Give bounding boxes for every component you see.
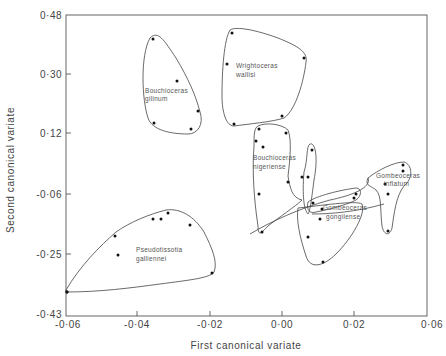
hull-bouchioceras-nigeriense (253, 124, 302, 233)
hull-bouchioceras-gilinum (143, 35, 201, 134)
label-bouchioceras-gilinum-1: Bouchioceras (145, 87, 188, 94)
label-wrightoceras-wallisi-2: wallisi (235, 71, 255, 78)
y-tick-label: -0·25 (36, 249, 62, 260)
x-tick-label: 0·02 (343, 319, 365, 330)
x-tick-label: -0·06 (55, 319, 81, 330)
label-wrightoceras-wallisi-1: Wrightoceras (236, 62, 278, 70)
points-bouchioceras-nigeriense (255, 128, 314, 239)
label-gombeoceras-gongilense-2: gongilense (326, 213, 361, 221)
points-wrightoceras-wallisi (226, 32, 306, 126)
label-pseudotissotia-galliennei-1: Pseudotissotia (136, 246, 183, 253)
label-bouchioceras-nigeriense-2: nigeriense (253, 163, 286, 171)
x-tick-label: 0·06 (421, 319, 443, 330)
y-axis-title: Second canonical variate (5, 107, 16, 233)
hull-wrightoceras-wallisi (222, 28, 306, 126)
hull-gombeoceras-gongilense-outer (297, 203, 362, 265)
scatter-chart: 0·48 0·30 0·12 -0·06 -0·25 -0·43 -0·06 -… (0, 0, 446, 356)
label-gombeoceras-inflatum-1: Gombeoceras (376, 172, 421, 179)
label-gombeoceras-inflatum-2: inflatum (384, 180, 409, 187)
y-tick-label: 0·12 (40, 128, 62, 139)
y-tick-label: -0·06 (36, 189, 62, 200)
label-bouchioceras-gilinum-2: gilinum (145, 95, 168, 103)
points-bouchioceras-gilinum (152, 38, 200, 131)
label-bouchioceras-nigeriense-1: Bouchioceras (253, 154, 296, 161)
label-gombeoceras-gongilense-1: Gombeoceras (323, 204, 368, 211)
data-points (65, 32, 404, 294)
x-axis-title: First canonical variate (190, 340, 301, 351)
x-axis: -0·06 -0·04 -0·02 0·00 0·02 0·06 (55, 311, 443, 330)
x-tick-label: -0·02 (197, 319, 223, 330)
x-tick-label: 0·00 (271, 319, 293, 330)
y-tick-label: 0·30 (40, 69, 62, 80)
plot-frame (66, 15, 427, 316)
x-tick-label: -0·04 (124, 319, 150, 330)
y-tick-label: 0·48 (40, 10, 62, 21)
label-pseudotissotia-galliennei-2: galliennei (136, 255, 166, 263)
group-labels: Bouchioceras gilinum Wrightoceras wallis… (136, 62, 421, 263)
